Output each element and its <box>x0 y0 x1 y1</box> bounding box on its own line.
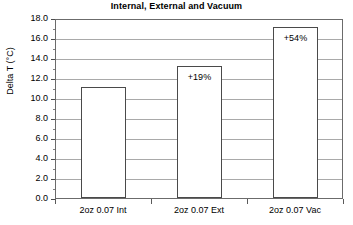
x-tick-mark-1 <box>151 199 152 204</box>
bar-2oz-0-07-vac[interactable]: +54% <box>273 27 318 198</box>
y-tick-label-10: 10.0 <box>0 94 48 103</box>
x-tick-mark-2 <box>247 199 248 204</box>
x-category-label-ext: 2oz 0.07 Ext <box>151 205 247 215</box>
x-category-label-vac: 2oz 0.07 Vac <box>247 205 343 215</box>
x-tick-mark-0 <box>55 199 56 204</box>
y-tick-label-6: 6.0 <box>0 134 48 143</box>
y-tick-label-4: 4.0 <box>0 154 48 163</box>
x-tick-mark-3 <box>343 199 344 204</box>
plot-area: +19% +54% <box>55 19 343 199</box>
y-tick-label-2: 2.0 <box>0 174 48 183</box>
y-tick-label-18: 18.0 <box>0 14 48 23</box>
y-tick-label-16: 16.0 <box>0 34 48 43</box>
chart-title: Internal, External and Vacuum <box>0 1 353 11</box>
x-category-label-int: 2oz 0.07 Int <box>55 205 151 215</box>
y-tick-label-12: 12.0 <box>0 74 48 83</box>
bar-label-2oz-0-07-vac: +54% <box>274 33 317 43</box>
y-tick-label-0: 0.0 <box>0 194 48 203</box>
chart-container: Internal, External and Vacuum Delta T (°… <box>0 0 353 225</box>
bar-2oz-0-07-ext[interactable]: +19% <box>177 66 222 198</box>
y-tick-label-14: 14.0 <box>0 54 48 63</box>
bar-2oz-0-07-int[interactable] <box>81 87 126 198</box>
y-tick-label-8: 8.0 <box>0 114 48 123</box>
bar-label-2oz-0-07-ext: +19% <box>178 72 221 82</box>
